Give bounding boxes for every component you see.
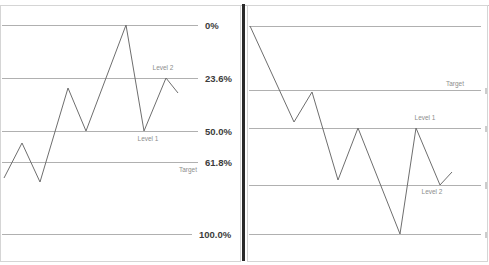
annotation-target: Target bbox=[179, 166, 197, 174]
axis-label-1000: 100.0% bbox=[199, 229, 232, 240]
figure-canvas: 0% 23.6% 50.0% 61.8% 100.0% Level 2 Leve… bbox=[0, 0, 489, 265]
axis-label-618: 61.8% bbox=[205, 157, 232, 168]
annotation-target-right: Target bbox=[446, 80, 464, 88]
axis-label-236: 23.6% bbox=[205, 73, 232, 84]
axis-label-500: 50.0% bbox=[205, 126, 232, 137]
fibonacci-retracement-figure: 0% 23.6% 50.0% 61.8% 100.0% Level 2 Leve… bbox=[0, 0, 489, 265]
annotation-level-2-right: Level 2 bbox=[422, 188, 443, 195]
annotation-level-2: Level 2 bbox=[153, 64, 174, 71]
annotation-level-1: Level 1 bbox=[138, 135, 159, 142]
annotation-level-1-right: Level 1 bbox=[415, 114, 436, 121]
axis-label-0: 0% bbox=[205, 20, 219, 31]
